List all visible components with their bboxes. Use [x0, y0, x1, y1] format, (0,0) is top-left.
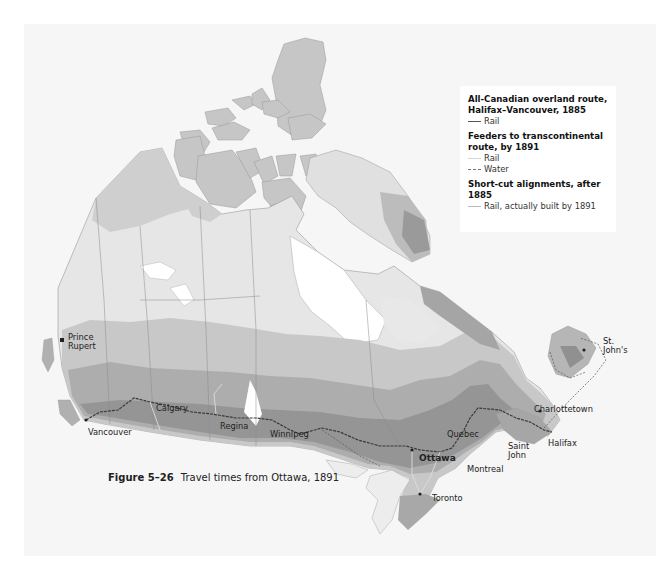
city-label-prince-rupert: Prince Rupert	[68, 333, 96, 351]
shortcut-rail-line-icon	[468, 206, 481, 207]
city-label-winnipeg: Winnipeg	[270, 430, 309, 439]
city-label-st-johns: St. John's	[603, 337, 628, 355]
city-label-saint-john: Saint John	[508, 442, 529, 460]
legend-heading: Short-cut alignments, after 1885	[468, 179, 616, 201]
legend-item-shortcut-rail: Rail, actually built by 1891	[468, 201, 616, 212]
legend-item-water: Water	[468, 164, 616, 175]
city-label-calgary: Calgary	[156, 404, 188, 413]
legend-heading: Feeders to transcontinental	[468, 131, 616, 142]
legend-group-feeders: Feeders to transcontinental route, by 18…	[468, 131, 616, 175]
map-legend: All-Canadian overland route, Halifax–Van…	[460, 86, 616, 232]
city-label-regina: Regina	[220, 422, 248, 431]
legend-heading: route, by 1891	[468, 142, 616, 153]
legend-item-main-rail: Rail	[468, 116, 616, 127]
city-name-line2: John's	[603, 346, 628, 355]
city-label-ottawa: Ottawa	[419, 454, 456, 463]
legend-item-label: Rail	[484, 153, 499, 164]
legend-heading: All-Canadian overland route,	[468, 94, 616, 105]
baffin-island	[306, 150, 430, 262]
figure-title: Travel times from Ottawa, 1891	[181, 472, 339, 483]
legend-item-label: Water	[484, 164, 509, 175]
city-label-montreal: Montreal	[467, 465, 503, 474]
legend-group-shortcuts: Short-cut alignments, after 1885 Rail, a…	[468, 179, 616, 212]
city-label-halifax: Halifax	[548, 439, 577, 448]
city-label-quebec: Quebec	[447, 430, 479, 439]
legend-heading: Halifax–Vancouver, 1885	[468, 105, 616, 116]
figure-caption: Figure 5–26 Travel times from Ottawa, 18…	[108, 472, 339, 483]
legend-item-label: Rail, actually built by 1891	[484, 201, 596, 212]
city-label-toronto: Toronto	[432, 494, 463, 503]
legend-item-feeder-rail: Rail	[468, 153, 616, 164]
city-label-charlottetown: Charlottetown	[534, 405, 593, 414]
legend-item-label: Rail	[484, 116, 499, 127]
dashed-water-line-icon	[468, 169, 481, 170]
city-label-vancouver: Vancouver	[88, 428, 132, 437]
figure-number: Figure 5–26	[108, 472, 174, 483]
feeder-rail-line-icon	[468, 158, 481, 159]
city-name-line2: John	[508, 451, 529, 460]
city-name-line2: Rupert	[68, 342, 96, 351]
legend-group-overland-route: All-Canadian overland route, Halifax–Van…	[468, 94, 616, 127]
main-rail-line-icon	[468, 121, 481, 122]
arctic-islands	[174, 38, 326, 220]
